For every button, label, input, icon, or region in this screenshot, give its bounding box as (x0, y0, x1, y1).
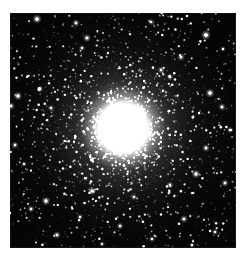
globular-cluster-photograph (10, 13, 236, 248)
page-root (0, 0, 244, 260)
star-field-canvas (10, 13, 236, 248)
